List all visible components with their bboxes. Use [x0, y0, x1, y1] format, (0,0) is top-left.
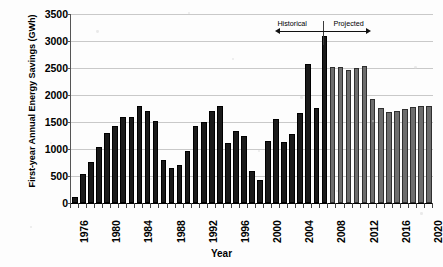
bar-2013 — [370, 99, 376, 203]
bar-2020 — [426, 106, 432, 203]
x-tick-mark — [110, 203, 111, 208]
scan-speckle — [300, 96, 303, 99]
x-tick-mark — [327, 203, 328, 208]
x-tick-mark — [223, 203, 224, 208]
bar-1999 — [257, 180, 263, 203]
scan-speckle — [96, 30, 99, 33]
x-tick-mark — [311, 203, 312, 208]
x-tick-label: 1980 — [110, 220, 122, 243]
x-tick-mark — [376, 203, 377, 208]
x-tick-mark — [303, 203, 304, 208]
bar-1987 — [161, 160, 167, 203]
bar-1990 — [185, 151, 191, 203]
bar-1988 — [169, 168, 175, 203]
x-tick-label: 2016 — [400, 220, 412, 243]
bar-1985 — [145, 111, 151, 203]
bar-1977 — [80, 174, 86, 203]
bar-1979 — [96, 147, 102, 203]
bar-2015 — [386, 112, 392, 203]
bar-2009 — [338, 67, 344, 203]
x-tick-mark — [94, 203, 95, 208]
x-tick-mark — [400, 203, 401, 208]
x-tick-mark — [118, 203, 119, 208]
bar-2001 — [273, 119, 279, 203]
x-axis-tick-labels: 1976198019841988199219962000200420082012… — [70, 209, 432, 245]
bar-1995 — [225, 143, 231, 203]
bar-1991 — [193, 126, 199, 203]
x-tick-mark — [255, 203, 256, 208]
x-tick-mark — [263, 203, 264, 208]
bar-1996 — [233, 131, 239, 203]
bar-1983 — [129, 117, 135, 203]
x-tick-mark — [416, 203, 417, 208]
bar-2016 — [394, 111, 400, 203]
bar-2006 — [314, 108, 320, 203]
x-tick-mark — [142, 203, 143, 208]
bar-1997 — [241, 136, 247, 203]
bar-1981 — [112, 126, 118, 203]
x-tick-mark — [408, 203, 409, 208]
x-tick-label: 2004 — [303, 220, 315, 243]
x-tick-mark — [150, 203, 151, 208]
x-tick-mark — [287, 203, 288, 208]
bar-1986 — [153, 121, 159, 203]
x-tick-mark — [167, 203, 168, 208]
bar-2002 — [281, 142, 287, 203]
bar-1989 — [177, 165, 183, 203]
x-tick-mark — [78, 203, 79, 208]
y-tick-label: 1500 — [28, 117, 68, 128]
bar-2014 — [378, 108, 384, 203]
bar-2007 — [322, 36, 328, 203]
bar-2008 — [330, 67, 336, 203]
x-tick-mark — [352, 203, 353, 208]
x-tick-label: 1976 — [78, 220, 90, 243]
x-tick-mark — [175, 203, 176, 208]
x-tick-mark — [207, 203, 208, 208]
x-tick-mark — [191, 203, 192, 208]
plot-area — [70, 14, 433, 204]
y-tick-label: 1000 — [28, 144, 68, 155]
y-tick-label: 2500 — [28, 63, 68, 74]
x-tick-mark — [432, 203, 433, 208]
x-tick-mark — [70, 203, 71, 208]
scan-speckle — [30, 226, 32, 228]
x-tick-label: 2000 — [271, 220, 283, 243]
x-tick-mark — [424, 203, 425, 208]
bar-2012 — [362, 66, 368, 203]
bar-2003 — [289, 134, 295, 203]
x-tick-mark — [199, 203, 200, 208]
x-tick-mark — [102, 203, 103, 208]
bar-1992 — [201, 122, 207, 203]
x-tick-mark — [134, 203, 135, 208]
x-tick-mark — [86, 203, 87, 208]
energy-savings-bar-chart: First-year Annual Energy Savings (GWh) 0… — [0, 0, 443, 267]
x-tick-label: 1988 — [175, 220, 187, 243]
bar-2018 — [410, 107, 416, 203]
x-tick-mark — [344, 203, 345, 208]
bar-1994 — [217, 106, 223, 203]
bar-2010 — [346, 70, 352, 203]
x-tick-mark — [335, 203, 336, 208]
x-tick-label: 1984 — [142, 220, 154, 243]
x-tick-mark — [295, 203, 296, 208]
y-tick-label: 3000 — [28, 36, 68, 47]
x-tick-mark — [368, 203, 369, 208]
bar-2017 — [402, 109, 408, 203]
x-tick-label: 1992 — [207, 220, 219, 243]
bar-2019 — [418, 106, 424, 203]
bar-1993 — [209, 111, 215, 203]
x-tick-mark — [183, 203, 184, 208]
bar-1998 — [249, 171, 255, 203]
y-tick-label: 2000 — [28, 90, 68, 101]
x-tick-mark — [392, 203, 393, 208]
y-tick-label: 0 — [28, 198, 68, 209]
bar-1978 — [88, 162, 94, 203]
y-axis-tick-labels: 0500100015002000250030003500 — [28, 8, 68, 208]
bars-container — [71, 14, 433, 203]
x-tick-mark — [271, 203, 272, 208]
x-tick-mark — [239, 203, 240, 208]
bar-1982 — [120, 117, 126, 203]
x-tick-mark — [279, 203, 280, 208]
bar-1984 — [137, 106, 143, 203]
bar-2005 — [305, 64, 311, 203]
